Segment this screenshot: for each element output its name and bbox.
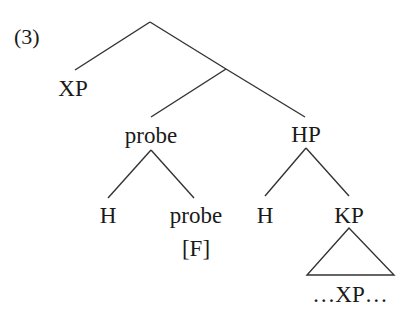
node-hp-h: H <box>257 204 274 227</box>
edge-intermediate-probe <box>151 69 226 117</box>
node-probe-head: probe <box>170 204 222 227</box>
tree-edges <box>0 0 417 321</box>
edge-root-intermediate <box>150 22 226 69</box>
node-kp: KP <box>334 204 363 227</box>
kp-triangle <box>307 228 394 275</box>
edge-root-xp <box>75 22 150 70</box>
node-probe-h: H <box>100 204 117 227</box>
node-hp: HP <box>291 123 320 146</box>
node-kp-content: …XP… <box>312 283 387 306</box>
edge-hp-h <box>265 148 306 196</box>
edge-probe-probehead <box>151 150 194 198</box>
node-xp: XP <box>58 77 87 100</box>
edge-probe-h <box>108 150 151 198</box>
edge-hp-kp <box>306 148 349 196</box>
syntax-tree-diagram: (3) XP probe HP H probe [F] H KP …XP… <box>0 0 417 321</box>
node-probe-feature: [F] <box>182 237 210 260</box>
node-probe: probe <box>125 124 177 147</box>
example-number: (3) <box>14 26 40 48</box>
edge-intermediate-hp <box>226 69 305 117</box>
